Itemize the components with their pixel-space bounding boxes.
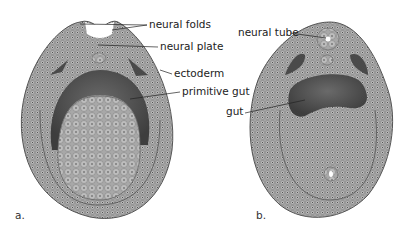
neural-tube-lumen: [326, 37, 331, 42]
embryo-diagram: [0, 0, 420, 236]
label-gut: gut: [226, 106, 243, 117]
ventral-tube-lumen: [329, 171, 333, 177]
label-neural-tube: neural tube: [238, 27, 299, 38]
label-neural-plate: neural plate: [160, 41, 223, 52]
embryo-b-body: [250, 22, 393, 217]
yolk-mass: [58, 96, 140, 200]
notochord: [92, 53, 106, 63]
panel-label-a: a.: [15, 209, 25, 221]
label-ectoderm: ectoderm: [174, 68, 224, 79]
embryo-b: [250, 22, 393, 217]
embryo-a: [21, 21, 172, 218]
label-primitive-gut: primitive gut: [182, 86, 250, 97]
panel-label-b: b.: [256, 209, 266, 221]
label-neural-folds: neural folds: [149, 19, 211, 30]
notochord-b: [321, 55, 333, 65]
